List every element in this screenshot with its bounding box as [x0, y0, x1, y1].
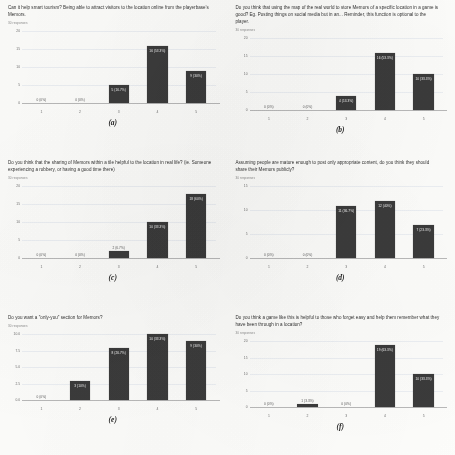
x-axis-line	[22, 103, 220, 104]
bar[interactable]	[109, 251, 129, 258]
x-axis-tick-label: 4	[368, 117, 401, 121]
bar-data-label: 0 (0%)	[36, 395, 46, 399]
bar-group: 0 (0%)	[252, 38, 285, 110]
question-title: Do you think that the sharing of Memors …	[8, 160, 213, 174]
bar-group: 0 (0%)	[64, 186, 97, 258]
bar-group: 0 (0%)	[25, 31, 58, 103]
x-axis-tick-labels: 12345	[22, 110, 216, 114]
bar-chart-plot: 0510150 (0%)0 (0%)11 (36.7%)12 (40%)7 (2…	[234, 186, 448, 272]
bar-data-label: 1 (3.3%)	[301, 399, 313, 403]
bar-group: 2 (6.7%)	[102, 186, 135, 258]
y-axis-tick-label: 5	[18, 238, 20, 242]
subfigure-caption: (c)	[4, 273, 222, 282]
bar[interactable]: 16 (53.3%)	[147, 46, 167, 104]
bar[interactable]: 9 (30%)	[186, 71, 206, 103]
bar-data-label: 12 (40%)	[378, 204, 391, 208]
question-title: Assuming people are mature enough to pos…	[236, 160, 441, 174]
bar[interactable]: 9 (30%)	[186, 341, 206, 400]
y-axis-tick-label: 20	[16, 29, 20, 33]
bar-chart-plot: 051015200 (0%)0 (0%)4 (13.3%)16 (53.3%)1…	[234, 38, 448, 124]
x-axis-tick-label: 4	[141, 110, 174, 114]
bar-data-label: 0 (0%)	[264, 105, 274, 109]
bar-group: 9 (30%)	[180, 334, 213, 400]
y-axis-tick-label: 10	[16, 220, 20, 224]
x-axis-tick-label: 2	[64, 407, 97, 411]
x-axis-tick-label: 3	[330, 265, 363, 269]
bar[interactable]: 3 (10%)	[70, 381, 90, 401]
x-axis-tick-label: 1	[25, 110, 58, 114]
y-axis-tick-label: 5.0	[15, 365, 20, 369]
bar-group: 8 (26.7%)	[102, 334, 135, 400]
response-count: 30 responses	[236, 331, 450, 335]
bar[interactable]: 11 (36.7%)	[336, 206, 356, 259]
bar-group: 11 (36.7%)	[330, 186, 363, 258]
bar[interactable]: 10 (33.3%)	[147, 222, 167, 258]
y-axis: 0.02.55.07.510.0	[6, 334, 22, 400]
x-axis-tick-label: 1	[25, 265, 58, 269]
x-axis-tick-label: 3	[102, 407, 135, 411]
bar[interactable]: 12 (40%)	[375, 201, 395, 259]
y-axis: 05101520	[234, 341, 250, 407]
y-axis-tick-label: 10	[244, 372, 248, 376]
bar[interactable]: 4 (13.3%)	[336, 96, 356, 110]
x-axis-tick-labels: 12345	[22, 407, 216, 411]
subfigure-caption: (f)	[232, 422, 450, 431]
bar-group: 0 (0%)	[252, 186, 285, 258]
x-axis-tick-label: 4	[368, 414, 401, 418]
bar-group: 0 (0%)	[25, 334, 58, 400]
bar-group: 0 (0%)	[64, 31, 97, 103]
x-axis-tick-label: 4	[141, 265, 174, 269]
bar-group: 9 (30%)	[180, 31, 213, 103]
bar-data-label: 18 (60%)	[189, 197, 202, 201]
bar[interactable]: 5 (16.7%)	[109, 85, 129, 103]
bar-data-label: 9 (30%)	[190, 74, 202, 78]
bar[interactable]: 16 (53.3%)	[375, 53, 395, 111]
y-axis-tick-label: 5	[246, 389, 248, 393]
y-axis: 05101520	[234, 38, 250, 110]
bar-group: 3 (10%)	[64, 334, 97, 400]
bar-group: 5 (16.7%)	[102, 31, 135, 103]
x-axis-tick-label: 1	[252, 117, 285, 121]
bar-data-label: 5 (16.7%)	[112, 88, 126, 92]
bar[interactable]: 10 (33.3%)	[147, 334, 167, 400]
x-axis-tick-label: 1	[252, 265, 285, 269]
bar-group: 4 (13.3%)	[330, 38, 363, 110]
x-axis-tick-label: 3	[330, 117, 363, 121]
y-axis-tick-label: 20	[244, 36, 248, 40]
response-count: 30 responses	[236, 176, 450, 180]
bar[interactable]: 7 (23.3%)	[413, 225, 433, 259]
bar[interactable]: 19 (63.3%)	[375, 345, 395, 408]
bar-group: 10 (33.3%)	[407, 38, 440, 110]
y-axis: 051015	[234, 186, 250, 258]
x-axis-tick-label: 1	[25, 407, 58, 411]
bar-data-label: 0 (0%)	[303, 253, 313, 257]
bar[interactable]: 10 (33.3%)	[413, 374, 433, 407]
y-axis-tick-label: 20	[16, 184, 20, 188]
y-axis-tick-label: 0	[18, 101, 20, 105]
y-axis-tick-label: 2.5	[15, 382, 20, 386]
bar-data-label: 0 (0%)	[36, 98, 46, 102]
x-axis-tick-label: 1	[252, 414, 285, 418]
bar-data-label: 0 (0%)	[341, 402, 351, 406]
bars-container: 0 (0%)1 (3.3%)0 (0%)19 (63.3%)10 (33.3%)	[250, 341, 444, 407]
bar-data-label: 0 (0%)	[75, 253, 85, 257]
y-axis-tick-label: 10	[244, 72, 248, 76]
question-title: Do you think a game like this is helpful…	[236, 315, 441, 329]
y-axis-tick-label: 15	[16, 47, 20, 51]
x-axis-tick-label: 5	[407, 117, 440, 121]
bar[interactable]: 10 (33.3%)	[413, 74, 433, 110]
x-axis-tick-labels: 12345	[250, 414, 444, 418]
chart-panel-d: Assuming people are mature enough to pos…	[228, 155, 455, 310]
x-axis-tick-label: 2	[291, 117, 324, 121]
bar[interactable]	[297, 404, 317, 407]
y-axis-tick-label: 5	[246, 232, 248, 236]
bar-data-label: 2 (6.7%)	[112, 246, 124, 250]
chart-panel-a: Can it help smart tourism? Being able to…	[0, 0, 228, 155]
bar[interactable]: 8 (26.7%)	[109, 348, 129, 401]
bar[interactable]: 18 (60%)	[186, 194, 206, 259]
x-axis-tick-label: 2	[291, 265, 324, 269]
bars-container: 0 (0%)3 (10%)8 (26.7%)10 (33.3%)9 (30%)	[22, 334, 216, 400]
bar-chart-plot: 051015200 (0%)0 (0%)5 (16.7%)16 (53.3%)9…	[6, 31, 220, 117]
x-axis-tick-labels: 12345	[250, 265, 444, 269]
response-count: 30 responses	[8, 176, 222, 180]
